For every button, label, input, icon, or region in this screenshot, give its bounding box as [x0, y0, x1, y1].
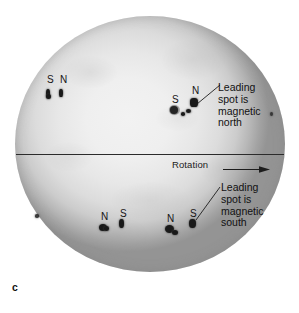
figure-letter-label: c [12, 281, 18, 293]
southern-hemisphere-callout: Leading spot is magnetic south [221, 182, 264, 229]
sunspot-left-limb-small [35, 214, 39, 218]
callout-north-line-2: spot is [218, 94, 261, 106]
sunspot-se-trailing-b [172, 230, 178, 235]
callout-north-line-4: north [218, 117, 261, 129]
sunspot-right-limb-small [270, 112, 273, 116]
solar-equator-line [16, 154, 284, 155]
polarity-letter-ne-left: S [172, 95, 179, 105]
northern-hemisphere-callout: Leading spot is magnetic north [218, 82, 261, 129]
sunspot-sw-trailing-b [104, 226, 109, 231]
solar-disk [15, 16, 285, 272]
sunspot-ne-leading-trail-a [186, 109, 191, 113]
polarity-letter-nw-left: S [47, 75, 54, 85]
polarity-letter-se-left: N [167, 214, 174, 224]
callout-south-line-4: south [221, 217, 264, 229]
sunspot-nw-leading [59, 89, 63, 97]
leader-line-south [194, 186, 222, 222]
polarity-letter-nw-right: N [60, 75, 67, 85]
sunspot-sw-leading [119, 219, 124, 228]
sunspot-ne-trailing-penumbra [169, 105, 180, 115]
rotation-label: Rotation [172, 159, 208, 170]
polarity-letter-sw-left: N [101, 212, 108, 222]
sunspot-ne-leading-trail-b [181, 112, 185, 116]
callout-south-line-2: spot is [221, 194, 264, 206]
sunspot-magnetic-polarity-figure: Rotation S N S N Leading spot is magneti… [0, 0, 299, 313]
sunspot-nw-trailing-core [46, 94, 51, 99]
rotation-arrow-icon [223, 166, 271, 173]
polarity-letter-sw-right: S [120, 209, 127, 219]
